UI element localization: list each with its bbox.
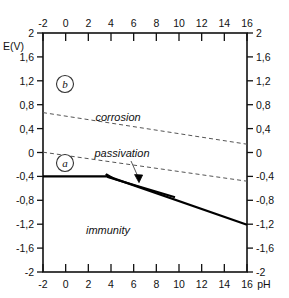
y-tick-label-left: 1,2 bbox=[19, 75, 34, 87]
y-tick-label-right: -0,4 bbox=[256, 170, 274, 182]
region-label-immunity: immunity bbox=[86, 224, 132, 236]
x-tick-label-bottom: 10 bbox=[173, 278, 185, 290]
series-line-b bbox=[43, 113, 247, 145]
x-axis-title: pH bbox=[257, 278, 270, 290]
x-tick-label-bottom: 4 bbox=[108, 278, 114, 290]
pourbaix-diagram: -2 0 2 4 6 8 10 12 14 16 -2 0 bbox=[0, 0, 289, 298]
y-tick-label-left: 1,6 bbox=[19, 51, 34, 63]
callout-a: a bbox=[57, 155, 74, 172]
y-tick-label-right: 0,8 bbox=[256, 99, 271, 111]
y-tick-label-right: -1,6 bbox=[256, 242, 274, 254]
y-axis-ticks-left bbox=[37, 33, 43, 272]
y-tick-label-right: -1,2 bbox=[256, 218, 274, 230]
x-tick-label-top: 0 bbox=[63, 17, 69, 29]
y-axis-title: E(V) bbox=[3, 40, 24, 52]
y-axis-tick-labels-left: 2 1,6 1,2 0,8 0,4 0 -0,4 -0,8 -1,2 -1,6 … bbox=[16, 27, 34, 278]
passivation-pointer-arrow bbox=[131, 161, 143, 183]
region-label-passivation: passivation bbox=[93, 147, 149, 159]
x-axis-tick-labels-bottom: -2 0 2 4 6 8 10 12 14 16 bbox=[38, 278, 253, 290]
y-tick-label-right: 2 bbox=[256, 27, 262, 39]
y-tick-label-left: 0 bbox=[28, 147, 34, 159]
series-immunity-boundary bbox=[43, 176, 247, 224]
x-tick-label-top: 16 bbox=[241, 17, 253, 29]
y-tick-label-left: -1,2 bbox=[16, 218, 34, 230]
x-tick-label-top: 2 bbox=[85, 17, 91, 29]
y-tick-label-right: 1,6 bbox=[256, 51, 271, 63]
x-tick-label-bottom: 16 bbox=[241, 278, 253, 290]
x-tick-label-top: 6 bbox=[131, 17, 137, 29]
y-tick-label-left: -0,8 bbox=[16, 194, 34, 206]
region-label-corrosion: corrosion bbox=[95, 111, 140, 123]
x-tick-label-top: 8 bbox=[153, 17, 159, 29]
y-tick-label-right: -2 bbox=[256, 266, 265, 278]
y-tick-label-left: 2 bbox=[28, 27, 34, 39]
y-tick-label-left: -0,4 bbox=[16, 170, 34, 182]
y-axis-tick-labels-right: 2 1,6 1,2 0,8 0,4 0 -0,4 -0,8 -1,2 -1,6 … bbox=[256, 27, 274, 278]
y-tick-label-left: 0,4 bbox=[19, 123, 34, 135]
callout-b: b bbox=[57, 76, 74, 93]
callout-label-a: a bbox=[62, 157, 68, 169]
y-axis-ticks-right bbox=[247, 33, 253, 272]
x-tick-label-bottom: 0 bbox=[63, 278, 69, 290]
x-tick-label-bottom: 6 bbox=[131, 278, 137, 290]
x-tick-label-bottom: 14 bbox=[218, 278, 230, 290]
x-tick-label-top: 10 bbox=[173, 17, 185, 29]
y-tick-label-left: -2 bbox=[25, 266, 34, 278]
pourbaix-plot-svg: -2 0 2 4 6 8 10 12 14 16 -2 0 bbox=[0, 0, 289, 298]
x-tick-label-bottom: 2 bbox=[85, 278, 91, 290]
y-tick-label-right: 1,2 bbox=[256, 75, 271, 87]
x-tick-label-top: 14 bbox=[218, 17, 230, 29]
x-tick-label-bottom: 8 bbox=[153, 278, 159, 290]
x-tick-label-top: 12 bbox=[196, 17, 208, 29]
y-tick-label-right: -0,8 bbox=[256, 194, 274, 206]
x-tick-label-bottom: 12 bbox=[196, 278, 208, 290]
x-axis-ticks-bottom bbox=[43, 264, 247, 272]
y-tick-label-right: 0,4 bbox=[256, 123, 271, 135]
y-tick-label-right: 0 bbox=[256, 147, 262, 159]
x-tick-label-top: 4 bbox=[108, 17, 114, 29]
y-tick-label-left: 0,8 bbox=[19, 99, 34, 111]
x-tick-label-top: -2 bbox=[38, 17, 47, 29]
x-axis-tick-labels-top: -2 0 2 4 6 8 10 12 14 16 bbox=[38, 17, 253, 29]
callout-label-b: b bbox=[62, 78, 68, 90]
x-axis-ticks-top bbox=[43, 33, 247, 41]
x-tick-label-bottom: -2 bbox=[38, 278, 47, 290]
y-tick-label-left: -1,6 bbox=[16, 242, 34, 254]
